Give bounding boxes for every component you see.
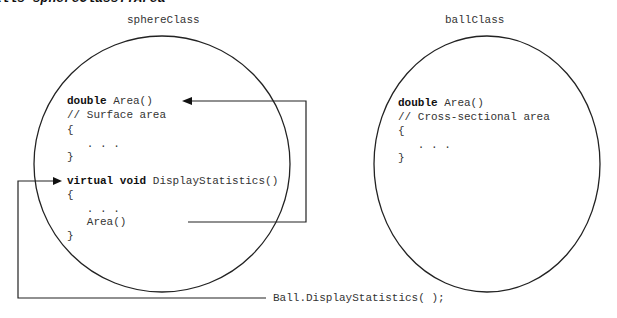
signature: Area() [438,97,484,109]
area-call-connector [188,101,306,222]
area-call: Area() [67,215,126,230]
brace-close: } [67,229,74,244]
figure-caption: calls sphereClass::Area [0,0,165,6]
sphere-area-declaration: double Area() [67,94,153,109]
diagram-lines [0,0,617,318]
signature: Area() [107,95,153,107]
brace-close: } [67,150,74,165]
sphere-display-declaration: virtual void DisplayStatistics() [67,174,278,189]
keyword: double [398,97,438,109]
ball-class-title: ballClass [445,14,504,26]
signature: DisplayStatistics() [146,175,278,187]
keyword: virtual void [67,175,146,187]
sphere-class-title: sphereClass [127,14,200,26]
ball-area-declaration: double Area() [398,96,484,111]
keyword: double [67,95,107,107]
ellipsis: . . . [67,137,120,152]
arrowhead-area-icon [182,97,192,105]
brace-close: } [398,151,405,166]
sphere-area-comment: // Surface area [67,108,166,123]
brace-open: { [398,124,405,139]
display-statistics-call: Ball.DisplayStatistics( ); [273,291,445,306]
display-call-connector [18,181,266,298]
ellipsis: . . . [398,138,451,153]
arrowhead-display-icon [53,177,62,185]
ball-area-comment: // Cross-sectional area [398,110,550,125]
brace-open: { [67,188,74,203]
ball-class-circle [374,36,600,292]
brace-open: { [67,123,74,138]
